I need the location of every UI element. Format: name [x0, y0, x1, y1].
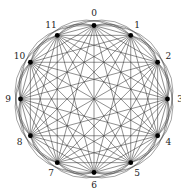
node-10: [28, 60, 33, 65]
node-label-10: 10: [14, 51, 26, 61]
node-label-2: 2: [166, 51, 172, 61]
node-0: [92, 23, 97, 28]
node-label-5: 5: [134, 168, 140, 178]
graph-edges: [21, 26, 168, 173]
node-6: [92, 170, 97, 175]
edge-5-10: [30, 62, 130, 162]
edge-6-10: [30, 62, 94, 172]
node-5: [128, 160, 133, 165]
node-8: [28, 133, 33, 138]
node-label-6: 6: [91, 180, 97, 190]
edge-8-11: [30, 35, 57, 135]
edge-5-9: [21, 99, 131, 163]
node-label-4: 4: [166, 137, 172, 147]
node-7: [55, 160, 60, 165]
complete-graph-diagram: 01234567891011: [0, 0, 181, 196]
edge-4-11: [57, 35, 157, 135]
edge-1-8: [30, 35, 130, 135]
edge-3-11: [57, 35, 167, 99]
edge-7-10: [30, 62, 57, 162]
node-1: [128, 33, 133, 38]
node-label-7: 7: [48, 168, 54, 178]
node-label-0: 0: [91, 8, 97, 18]
node-3: [165, 97, 170, 102]
node-label-11: 11: [45, 20, 56, 30]
node-4: [155, 133, 160, 138]
node-label-3: 3: [177, 94, 181, 104]
edge-2-7: [57, 62, 157, 162]
node-11: [55, 33, 60, 38]
edge-2-11: [57, 35, 157, 62]
node-2: [155, 60, 160, 65]
node-label-8: 8: [17, 137, 23, 147]
node-label-1: 1: [134, 20, 140, 30]
node-9: [18, 97, 23, 102]
node-label-9: 9: [5, 94, 11, 104]
